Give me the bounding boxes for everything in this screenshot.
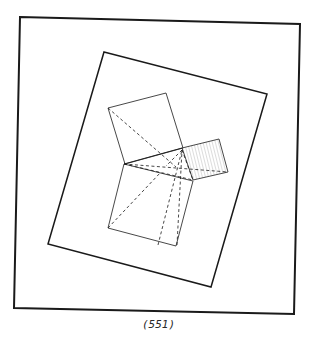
tilted-square: [48, 52, 267, 287]
dashed-line: [108, 172, 161, 228]
solid-line: [124, 148, 182, 164]
outer-frame: [14, 17, 300, 314]
dashed-line: [158, 150, 182, 245]
dashed-line: [177, 150, 182, 245]
hatched-small-square: [182, 139, 228, 180]
figure-caption: (551): [0, 318, 317, 331]
geometry-figure: [0, 0, 317, 346]
solid-construction-lines: [124, 148, 182, 164]
upper-square: [108, 93, 183, 164]
dashed-line: [108, 108, 176, 167]
